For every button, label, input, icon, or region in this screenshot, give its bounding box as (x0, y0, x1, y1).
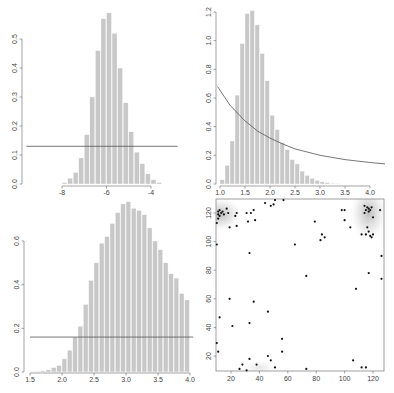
scatter-point (227, 212, 229, 214)
histogram-bar (101, 19, 106, 184)
scatter-point (363, 212, 365, 214)
scatter-point (236, 212, 238, 214)
histogram-bar (250, 11, 254, 184)
histogram-bar (305, 175, 309, 184)
histogram-bar (123, 103, 128, 184)
x-tick-label: 80 (312, 375, 320, 382)
scatter-point (361, 233, 363, 235)
histogram-bar (275, 130, 279, 184)
scatter-point (344, 219, 346, 221)
scatter-point (231, 325, 233, 327)
scatter-point (305, 275, 307, 277)
histogram-bar (179, 293, 184, 372)
x-tick-label: 100 (339, 375, 351, 382)
scatter-point (366, 226, 368, 228)
scatter-point (341, 209, 343, 211)
scatter-point (372, 216, 374, 218)
histogram-bar (255, 25, 259, 184)
histogram-bar (83, 304, 88, 372)
scatter-point (274, 199, 276, 201)
scatter-point (273, 203, 275, 205)
histogram-bar (295, 164, 299, 184)
y-tick-label: 60 (205, 295, 212, 303)
histogram-bar (131, 208, 136, 372)
scatter-point (216, 243, 218, 245)
scatter-point (282, 199, 284, 201)
histogram-bar (41, 371, 46, 372)
histogram-bar (118, 68, 123, 184)
scatter-point (234, 215, 236, 217)
scatter-point (355, 288, 357, 290)
x-tick-label: 1.5 (25, 376, 35, 383)
scatter-point (371, 206, 373, 208)
y-tick-label: 0.2 (13, 323, 20, 333)
scatter-point (217, 218, 219, 220)
y-tick-label: 0.4 (11, 63, 18, 73)
histogram-bar (110, 224, 115, 372)
histogram-top-left: 0.00.10.20.30.40.5-8-6-4 (11, 13, 178, 196)
scatter-bottom-right: 2040608010012020406080100120 (199, 183, 389, 382)
x-tick-label: 3.0 (121, 376, 131, 383)
y-tick-label: 20 (205, 352, 212, 360)
y-tick-label: 0.5 (11, 34, 18, 44)
histogram-bar (330, 183, 334, 184)
scatter-point (223, 213, 225, 215)
histogram-bar (73, 337, 78, 372)
histogram-bar (105, 237, 110, 372)
x-tick-label: 1.5 (240, 189, 250, 196)
scatter-point (294, 243, 296, 245)
scatter-point (246, 369, 248, 371)
scatter-point (241, 364, 243, 366)
histogram-bar (280, 142, 284, 184)
scatter-point (270, 359, 272, 361)
scatter-point (226, 208, 228, 210)
scatter-point (238, 368, 240, 370)
histogram-bar (78, 326, 83, 372)
histogram-bar (99, 243, 104, 372)
histogram-bar (62, 183, 67, 184)
histogram-bar (68, 178, 73, 184)
y-tick-label: 0.4 (13, 280, 20, 290)
x-tick-label: 60 (284, 375, 292, 382)
x-tick-label: 2.5 (89, 376, 99, 383)
scatter-point (248, 322, 250, 324)
x-tick-label: 3.0 (315, 189, 325, 196)
x-tick-label: 2.5 (290, 189, 300, 196)
x-tick-label: 40 (256, 375, 264, 382)
histogram-bar (62, 359, 67, 372)
x-tick-label: 20 (227, 375, 235, 382)
histogram-bar (285, 150, 289, 184)
scatter-point (219, 209, 221, 211)
histogram-bar (240, 44, 244, 184)
histogram-bar (320, 182, 324, 184)
scatter-point (250, 212, 252, 214)
scatter-point (221, 211, 223, 213)
histogram-bar (300, 171, 304, 184)
y-tick-label: 0.4 (205, 122, 212, 132)
y-tick-label: 80 (205, 266, 212, 274)
scatter-point (216, 222, 218, 224)
histogram-bar (310, 178, 314, 184)
histogram-bar (112, 33, 117, 184)
scatter-point (371, 236, 373, 238)
y-tick-label: 0.6 (13, 236, 20, 246)
scatter-point (305, 368, 307, 370)
y-tick-label: 1.2 (205, 7, 212, 17)
histogram-bar (265, 81, 269, 184)
histogram-bar (107, 13, 112, 184)
scatter-point (379, 209, 381, 211)
histogram-bar (95, 51, 100, 184)
scatter-point (281, 351, 283, 353)
y-tick-label: 0.0 (13, 367, 20, 377)
chart-canvas: 0.00.10.20.30.40.5-8-6-4 0.00.20.40.60.8… (0, 0, 394, 393)
scatter-point (324, 236, 326, 238)
y-tick-label: 0.0 (11, 179, 18, 189)
x-tick-label: 4.0 (365, 189, 375, 196)
y-tick-label: 0.2 (11, 121, 18, 131)
histogram-bar (245, 13, 249, 184)
scatter-point (236, 225, 238, 227)
histogram-bar (169, 274, 174, 372)
histogram-bar (46, 370, 51, 372)
y-tick-label: 0.3 (11, 92, 18, 102)
x-tick-label: 2.0 (57, 376, 67, 383)
